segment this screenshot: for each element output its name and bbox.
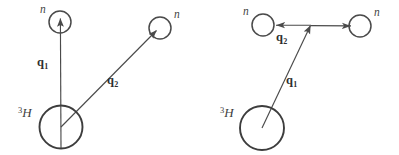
nucleus-label-left-panel: 3H	[18, 106, 32, 119]
neutron-circle-left-right-panel	[252, 14, 274, 36]
neutron-label-right-right-panel: n	[374, 7, 380, 19]
vector-q2-subscript-right-panel: 2	[283, 37, 287, 46]
vector-label-q1-right-panel: q1	[286, 74, 297, 89]
panel-left	[40, 11, 172, 149]
vector-q2-subscript-left-panel: 2	[114, 80, 118, 89]
vector-label-q1-left-panel: q1	[37, 56, 48, 71]
vector-diagram-svg	[0, 0, 399, 155]
neutron-label-right-left-panel: n	[174, 9, 180, 21]
vector-q1-arrow-left-panel	[60, 19, 61, 149]
vector-q1-subscript-right-panel: 1	[293, 80, 297, 89]
vector-q1-symbol-left-panel: q	[37, 55, 44, 69]
vector-label-q2-right-panel: q2	[276, 31, 287, 46]
vector-label-q2-left-panel: q2	[107, 74, 118, 89]
vector-q1-subscript-left-panel: 1	[44, 62, 48, 71]
vector-q2-symbol-right-panel: q	[276, 30, 283, 44]
neutron-label-up-left-panel: n	[40, 4, 46, 16]
figure-canvas: n n 3H q1 q2 n n 3H q1 q2	[0, 0, 399, 155]
nucleus-element-symbol-right-panel: H	[224, 105, 233, 120]
neutron-circle-right-left-panel	[149, 17, 171, 39]
vector-q1-symbol-right-panel: q	[286, 73, 293, 87]
nucleus-label-right-panel: 3H	[220, 106, 234, 119]
panel-right	[240, 14, 371, 150]
nucleus-element-symbol-left-panel: H	[22, 105, 31, 120]
neutron-label-left-right-panel: n	[243, 6, 249, 18]
vector-q2-symbol-left-panel: q	[107, 73, 114, 87]
neutron-circle-right-right-panel	[349, 15, 371, 37]
